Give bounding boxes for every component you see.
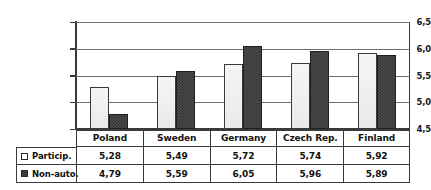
legend-item-nonauto: Non-auto. [16, 165, 76, 183]
bar-particip [224, 64, 243, 129]
table-cell: 5,49 [143, 147, 210, 165]
table-header-row: Poland Sweden Germany Czech Rep. Finland [16, 129, 410, 147]
bar-group [343, 22, 410, 129]
bar-chart-figure: 6,5 6,0 5,5 5,0 4,5 Poland Sweden German… [0, 0, 431, 190]
bar-particip [157, 76, 176, 129]
table-cell: 4,79 [76, 165, 143, 183]
table-cell: 5,74 [276, 147, 343, 165]
bar-nonauto [109, 114, 128, 130]
table-cell: 5,72 [210, 147, 277, 165]
bar-particip [90, 87, 109, 129]
hatched-square-icon [21, 170, 28, 177]
table-header-cell: Poland [76, 129, 143, 147]
legend-item-particip: Particip. [16, 147, 76, 165]
open-square-icon [21, 153, 28, 160]
bar-particip [291, 63, 310, 129]
legend-label: Particip. [32, 151, 71, 161]
bar-group [143, 22, 210, 129]
table-header-cell: Germany [210, 129, 277, 147]
legend-label: Non-auto. [32, 169, 79, 179]
table-header-cell: Finland [343, 129, 410, 147]
bar-group [210, 22, 277, 129]
data-table: Poland Sweden Germany Czech Rep. Finland… [16, 129, 410, 183]
bar-group [276, 22, 343, 129]
table-cell: 5,59 [143, 165, 210, 183]
table-corner-spacer [16, 129, 76, 147]
table-header-cell: Czech Rep. [276, 129, 343, 147]
bar-nonauto [310, 51, 329, 129]
bars-layer [76, 22, 410, 129]
table-cell: 5,89 [343, 165, 410, 183]
table-cell: 5,28 [76, 147, 143, 165]
bar-group [76, 22, 143, 129]
table-row: Particip. 5,28 5,49 5,72 5,74 5,92 [16, 147, 410, 165]
table-cell: 5,96 [276, 165, 343, 183]
bar-nonauto [377, 55, 396, 129]
bar-nonauto [243, 46, 262, 129]
bar-nonauto [176, 71, 195, 129]
table-header-cell: Sweden [143, 129, 210, 147]
table-cell: 5,92 [343, 147, 410, 165]
table-cell: 6,05 [210, 165, 277, 183]
table-row: Non-auto. 4,79 5,59 6,05 5,96 5,89 [16, 165, 410, 183]
bar-particip [358, 53, 377, 129]
